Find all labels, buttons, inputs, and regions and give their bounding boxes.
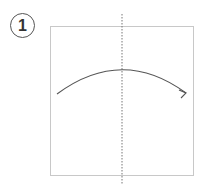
fold-diagram xyxy=(0,0,207,190)
